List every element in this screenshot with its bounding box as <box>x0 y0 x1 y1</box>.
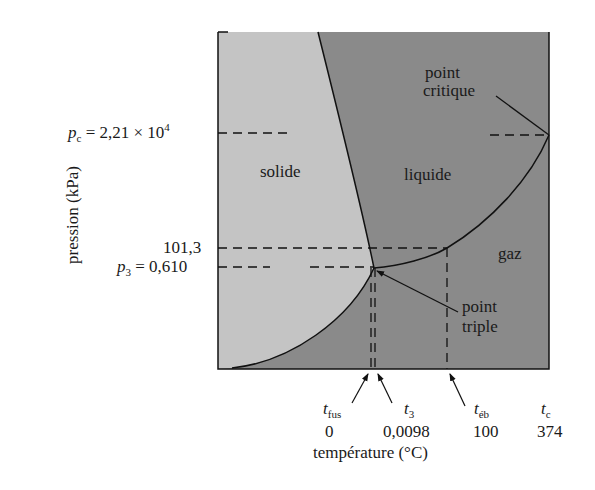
tfus-label: tfus <box>323 400 341 417</box>
teb-arrow <box>450 374 465 406</box>
triple-point-label: point triple <box>462 297 498 337</box>
pc-label: pc = 2,21 × 104 <box>68 124 170 141</box>
teb-label: téb <box>474 400 489 417</box>
teb-value: 100 <box>473 423 499 440</box>
t3-value: 0,0098 <box>383 423 430 440</box>
solid-region-label: solide <box>260 163 301 180</box>
y-axis-label: pression (kPa) <box>63 155 83 275</box>
p101-label: 101,3 <box>163 239 201 256</box>
critical-point-label: point critique <box>423 64 475 100</box>
gas-region-label: gaz <box>498 245 522 262</box>
tc-label: tc <box>541 400 551 417</box>
x-axis-label: température (°C) <box>313 444 428 461</box>
liquid-region-label: liquide <box>404 166 451 183</box>
tfus-arrow <box>352 374 368 403</box>
tc-value: 374 <box>537 423 563 440</box>
t3-arrow <box>378 374 392 403</box>
t3-label: t3 <box>404 400 414 417</box>
tfus-value: 0 <box>325 423 334 440</box>
p3-label: p3 = 0,610 <box>117 258 187 275</box>
